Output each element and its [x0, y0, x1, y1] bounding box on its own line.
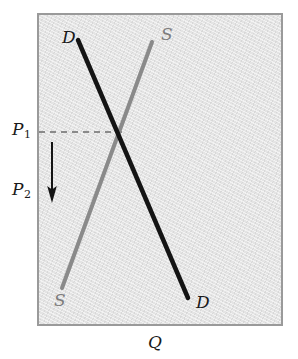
price-decrease-arrow — [47, 142, 57, 203]
price-label-p2: P2 — [12, 181, 30, 198]
price-label-p1-subscript: 1 — [24, 128, 31, 141]
demand-curve-label-bottom: D — [196, 294, 210, 311]
supply-demand-figure: D S S D P1 P2 Q — [0, 0, 298, 359]
supply-curve-label-bottom: S — [54, 292, 66, 309]
supply-curve-label-top: S — [161, 26, 173, 43]
curves-layer — [0, 0, 298, 359]
price-label-p2-text: P — [12, 179, 23, 199]
supply-curve — [62, 42, 152, 288]
demand-curve — [78, 40, 188, 298]
quantity-axis-label: Q — [148, 334, 162, 351]
price-label-p1-text: P — [12, 119, 23, 139]
price-label-p1: P1 — [12, 121, 30, 138]
demand-curve-label-top: D — [62, 29, 76, 46]
price-label-p2-subscript: 2 — [24, 188, 31, 201]
